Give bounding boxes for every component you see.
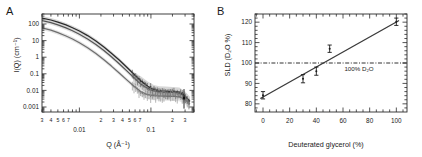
data-marker: [133, 78, 134, 79]
tick-label: 120: [241, 18, 252, 25]
data-marker: [135, 78, 136, 79]
data-marker: [187, 103, 188, 104]
panel-b-x-axis-title: Deuterated glycerol (%): [256, 140, 396, 149]
tick-label: 7: [67, 117, 70, 123]
data-marker: [148, 90, 149, 91]
data-marker: [158, 90, 159, 91]
data-marker: [150, 96, 151, 97]
tick-label: 4: [49, 117, 52, 123]
plot-annotations: 100% D₂O: [344, 65, 373, 72]
data-marker: [178, 96, 179, 97]
data-marker: [155, 90, 156, 91]
data-marker: [153, 94, 154, 95]
tick-label: 5: [56, 117, 59, 123]
data-marker: [153, 90, 154, 91]
tick-label: 100: [241, 59, 252, 66]
tick-label: 5: [128, 117, 131, 123]
tick-label: 1: [35, 53, 39, 60]
tick-label: 100: [391, 117, 402, 124]
data-marker: [145, 93, 146, 94]
data-marker: [188, 104, 189, 105]
data-marker: [175, 93, 176, 94]
data-marker: [163, 91, 164, 92]
data-marker: [168, 95, 169, 96]
tick-label: 0: [261, 117, 265, 124]
tick-label: 0.1: [146, 126, 155, 133]
data-marker: [173, 95, 174, 96]
data-marker: [152, 94, 153, 95]
data-marker: [147, 88, 148, 89]
data-marker: [143, 94, 144, 95]
panel-a-y-axis-title: I(Q) (cm⁻¹): [12, 15, 21, 95]
data-curves: [42, 18, 190, 104]
tick-label: 3: [112, 117, 115, 123]
data-marker: [145, 86, 146, 87]
tick-label: 0.01: [73, 126, 86, 133]
data-marker: [133, 86, 134, 87]
data-point: [329, 48, 331, 50]
data-marker: [138, 91, 139, 92]
data-marker: [175, 97, 176, 98]
tick-label: 0.1: [30, 70, 39, 77]
data-marker: [172, 96, 173, 97]
x-tick-labels: 0.010.13456723456723: [41, 117, 187, 134]
data-marker: [167, 94, 168, 95]
tick-label: 10: [32, 37, 40, 44]
tick-label: 0.001: [23, 103, 39, 110]
data-marker: [142, 85, 143, 86]
data-marker: [155, 95, 156, 96]
data-marker: [180, 96, 181, 97]
data-marker: [132, 84, 133, 85]
data-marker: [162, 91, 163, 92]
data-point: [262, 94, 264, 96]
data-marker: [148, 94, 149, 95]
tick-label: 20: [286, 117, 294, 124]
panel-a: A 0.010.13456723456723 0.0010.010.111010…: [0, 0, 211, 157]
tick-label: 0.01: [27, 87, 40, 94]
data-marker: [187, 99, 188, 100]
data-marker: [143, 87, 144, 88]
data-marker: [180, 92, 181, 93]
tick-label: 6: [134, 117, 137, 123]
data-marker: [140, 83, 141, 84]
tick-label: 2: [171, 117, 174, 123]
tick-label: 6: [62, 117, 65, 123]
figure-container: A 0.010.13456723456723 0.0010.010.111010…: [0, 0, 422, 157]
data-marker: [142, 93, 143, 94]
panel-b-y-axis-title: SLD (D₂O %): [223, 10, 232, 100]
data-marker: [135, 86, 136, 87]
reference-label: 100% D₂O: [344, 65, 373, 72]
tick-label: 100: [28, 20, 39, 27]
data-point: [395, 21, 397, 23]
y-tick-labels: 0.0010.010.1110100: [23, 20, 39, 110]
tick-label: 3: [41, 117, 44, 123]
data-marker: [165, 96, 166, 97]
data-marker: [172, 91, 173, 92]
tick-label: 80: [245, 100, 253, 107]
tick-label: 80: [366, 117, 374, 124]
data-marker: [143, 83, 144, 84]
tick-label: 2: [99, 117, 102, 123]
panel-b: B 100% D₂O 020406080100 8090100110120 De…: [211, 0, 422, 157]
data-marker: [142, 81, 143, 82]
data-marker: [170, 95, 171, 96]
data-point: [315, 70, 317, 72]
data-marker: [150, 89, 151, 90]
fit-line: [260, 21, 399, 99]
panel-b-plot: 100% D₂O 020406080100 8090100110120: [211, 0, 422, 157]
data-marker: [137, 79, 138, 80]
panel-a-x-axis-title: Q (Å⁻¹): [58, 140, 178, 149]
data-marker: [157, 94, 158, 95]
tick-label: 4: [121, 117, 124, 123]
tick-label: 60: [339, 117, 347, 124]
y-tick-labels: 8090100110120: [241, 18, 252, 107]
x-tick-labels: 020406080100: [261, 117, 402, 124]
data-marker: [182, 92, 183, 93]
data-marker: [132, 72, 133, 73]
data-marker: [182, 99, 183, 100]
tick-label: 40: [313, 117, 321, 124]
data-marker: [152, 91, 153, 92]
data-marker: [160, 95, 161, 96]
data-point: [302, 78, 304, 80]
data-marker: [158, 95, 159, 96]
